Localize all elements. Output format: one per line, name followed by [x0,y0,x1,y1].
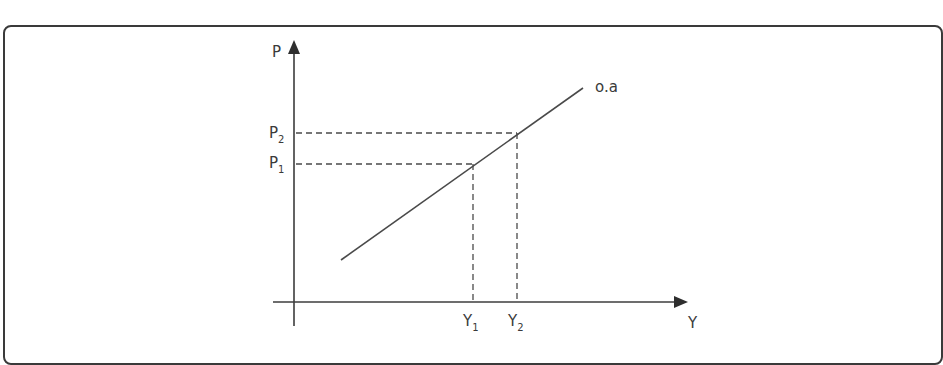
output-axis-label: Y [687,314,698,332]
p1-label: P1 [269,154,284,175]
y2-label: Y2 [507,312,524,333]
p2-label: P2 [269,124,284,145]
supply-curve [341,88,583,260]
y1-label: Y1 [462,312,479,333]
curve-label: o.a [595,78,618,96]
price-axis-label: P [272,43,281,61]
output-axis-arrow-icon [674,296,688,308]
price-axis-arrow-icon [288,40,300,54]
